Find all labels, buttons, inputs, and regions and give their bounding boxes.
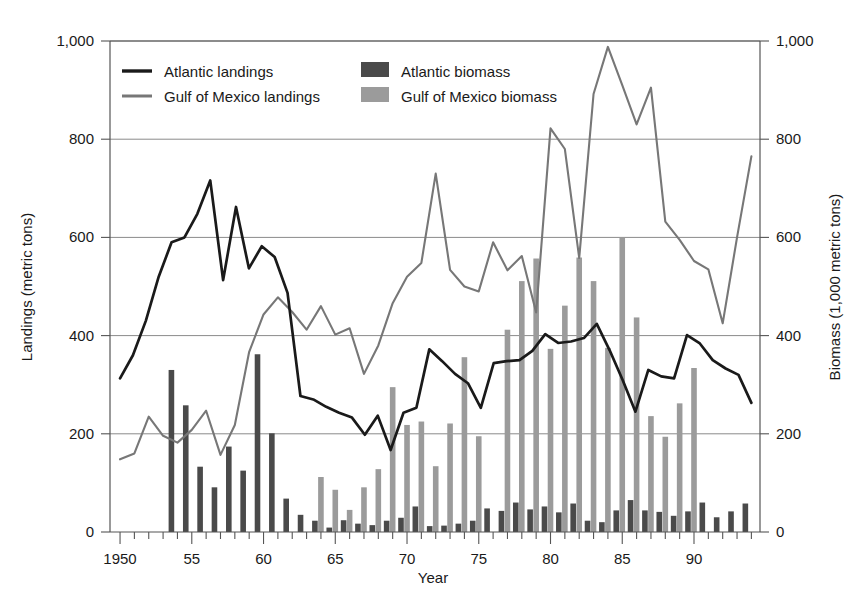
bar [671,516,677,532]
bar [519,281,525,532]
bar [628,500,634,532]
x-tick-label: 1950 [103,550,136,567]
legend-label-atlantic-landings: Atlantic landings [164,63,273,80]
bar [283,499,289,532]
bar [605,348,611,532]
bar [499,511,505,532]
bar [648,416,654,532]
y-tick-label-left: 600 [69,228,94,245]
bar [183,405,189,532]
bar [312,521,318,532]
bar [634,317,640,532]
bar [398,518,404,532]
legend-label-gulf-biomass: Gulf of Mexico biomass [401,88,557,105]
x-tick-label: 80 [542,550,559,567]
x-tick-label: 60 [255,550,272,567]
bar [255,354,261,532]
bar [470,521,476,532]
bar [332,490,338,532]
bar [527,509,533,532]
legend-label-atlantic-biomass: Atlantic biomass [401,63,510,80]
bar [562,306,568,532]
bar [663,437,669,532]
bar [240,471,246,532]
bar [685,511,691,532]
x-tick-label: 85 [614,550,631,567]
x-tick-label: 65 [327,550,344,567]
x-tick-label: 90 [686,550,703,567]
bar [599,522,605,532]
bar [384,521,390,532]
bar [585,521,591,532]
bar [484,508,490,532]
bar [743,504,749,532]
y-axis-left-title: Landings (metric tons) [18,213,35,361]
bar [548,349,554,532]
bar [370,525,376,532]
y-axis-right-title: Biomass (1,000 metric tons) [826,194,843,381]
bar [413,506,419,532]
bar [728,511,734,532]
bar [441,526,447,532]
bar [269,433,275,532]
bar [677,403,683,532]
bar [613,510,619,532]
y-tick-label-right: 200 [776,425,801,442]
bar [591,281,597,532]
bar [556,512,562,532]
bar [376,469,382,532]
bar [427,526,433,532]
bar [570,504,576,532]
bar [476,436,482,532]
y-tick-label-right: 1,000 [776,32,814,49]
y-tick-label-left: 400 [69,327,94,344]
bar [691,368,697,532]
bar [197,467,203,532]
bar [390,387,396,532]
bar [576,258,582,532]
bar [419,422,425,532]
x-tick-label: 75 [470,550,487,567]
bar [447,423,453,532]
bar [169,370,175,532]
bar [542,506,548,532]
bar [656,512,662,532]
x-tick-label: 55 [183,550,200,567]
bar [341,520,347,532]
bar [298,515,304,532]
y-tick-label-right: 0 [776,523,784,540]
y-tick-label-right: 800 [776,130,801,147]
legend-label-gulf-landings: Gulf of Mexico landings [164,88,320,105]
bar [433,466,439,532]
bar [347,510,353,532]
y-tick-label-left: 1,000 [56,32,94,49]
y-tick-label-left: 0 [86,523,94,540]
bar [226,447,232,532]
bar [700,503,706,532]
chart-figure: 19505560657075808590 02004006008001,000 … [0,0,866,610]
bar [326,528,332,532]
bar [361,487,367,532]
bar [513,503,519,532]
x-axis-title: Year [418,569,448,586]
bar [404,425,410,532]
bar [212,487,218,532]
bar [714,517,720,532]
y-tick-label-right: 600 [776,228,801,245]
y-tick-label-left: 200 [69,425,94,442]
bar [456,524,462,532]
legend-swatch-atlantic-biomass [361,62,389,77]
bar [355,524,361,532]
x-tick-label: 70 [399,550,416,567]
bar [318,477,324,532]
legend-swatch-gulf-biomass [361,87,389,102]
y-tick-label-left: 800 [69,130,94,147]
bar [642,510,648,532]
y-tick-label-right: 400 [776,327,801,344]
